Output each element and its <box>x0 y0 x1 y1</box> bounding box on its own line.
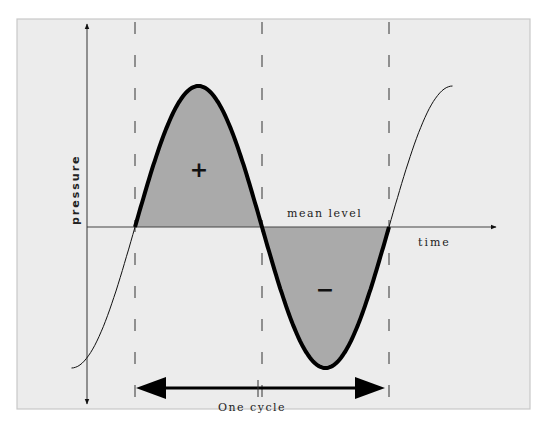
pressure-axis-label: pressure <box>69 154 82 225</box>
pressure-wave-diagram: pressure time mean level + − One cycle <box>0 0 546 444</box>
positive-half-sign: + <box>190 157 208 182</box>
panel-background <box>17 19 530 409</box>
mean-level-label: mean level <box>287 207 362 220</box>
negative-half-sign: − <box>316 277 334 302</box>
time-axis-label: time <box>418 236 451 249</box>
one-cycle-label: One cycle <box>218 401 286 414</box>
